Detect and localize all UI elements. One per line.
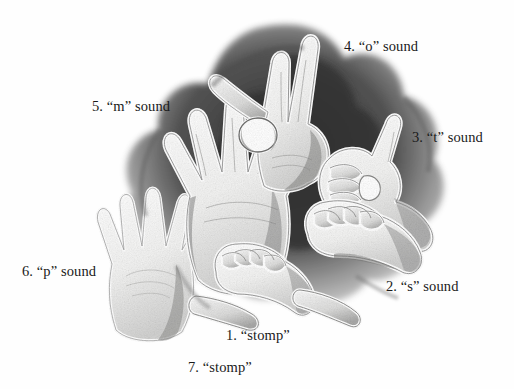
label-5-m-sound: 5. “m” sound — [92, 99, 170, 115]
label-1-stomp: 1. “stomp” — [226, 328, 290, 344]
hand-signs-figure: 4. “o” sound 5. “m” sound 3. “t” sound 6… — [0, 0, 514, 389]
label-6-p-sound: 6. “p” sound — [22, 264, 96, 280]
label-4-o-sound: 4. “o” sound — [344, 39, 418, 55]
label-2-s-sound: 2. “s” sound — [386, 279, 458, 295]
label-3-t-sound: 3. “t” sound — [412, 130, 483, 146]
label-7-stomp: 7. “stomp” — [188, 360, 252, 376]
hand-4-o-ring — [239, 118, 277, 152]
